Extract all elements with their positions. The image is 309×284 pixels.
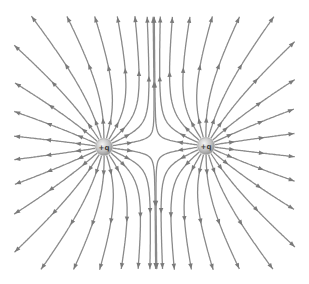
arrow-icon <box>235 263 239 269</box>
field-line <box>209 155 273 270</box>
arrow-icon <box>289 80 295 85</box>
arrow-icon <box>101 118 105 124</box>
arrow-icon <box>95 120 99 126</box>
arrow-icon <box>41 263 46 269</box>
arrow-icon <box>192 165 196 171</box>
arrow-icon <box>125 217 129 223</box>
arrow-icon <box>197 64 201 70</box>
arrow-icon <box>109 218 113 224</box>
arrow-icon <box>94 17 98 23</box>
arrow-icon <box>147 76 151 82</box>
arrow-icon <box>198 218 202 224</box>
arrow-icon <box>187 17 191 23</box>
arrow-icon <box>127 148 133 152</box>
arrow-icon <box>70 219 75 225</box>
arrow-icon <box>15 180 21 184</box>
arrow-icon <box>102 170 106 176</box>
arrow-icon <box>216 219 220 225</box>
arrow-icon <box>216 64 220 70</box>
arrow-icon <box>226 134 232 138</box>
field-line <box>170 17 200 140</box>
arrow-icon <box>238 220 243 226</box>
arrow-icon <box>177 141 183 145</box>
field-lines <box>14 16 295 270</box>
arrow-icon <box>237 64 242 70</box>
arrow-icon <box>205 169 209 175</box>
arrow-icon <box>182 216 186 222</box>
arrow-icon <box>15 83 21 88</box>
arrow-icon <box>145 17 149 23</box>
field-line <box>111 16 139 141</box>
arrow-icon <box>75 148 81 152</box>
arrow-icon <box>91 220 95 226</box>
field-line <box>111 153 140 269</box>
arrow-icon <box>181 67 185 73</box>
field-line <box>211 42 295 139</box>
field-line <box>109 16 126 139</box>
arrow-icon <box>211 118 215 124</box>
charge-label: +q <box>99 144 110 152</box>
arrow-icon <box>235 17 239 23</box>
arrow-icon <box>67 17 71 23</box>
arrow-icon <box>288 109 294 113</box>
arrow-icon <box>78 136 84 140</box>
charge-label: +q <box>201 143 212 151</box>
arrow-icon <box>49 105 55 110</box>
arrow-icon <box>65 64 70 70</box>
charge-right: +q <box>198 138 215 155</box>
field-line <box>15 155 100 253</box>
arrow-icon <box>158 76 162 82</box>
arrow-icon <box>258 166 264 170</box>
field-line <box>214 109 294 142</box>
arrow-icon <box>229 140 235 144</box>
arrow-icon <box>137 70 141 76</box>
arrow-icon <box>209 264 213 270</box>
arrow-icon <box>136 263 140 269</box>
arrow-icon <box>124 134 130 139</box>
arrow-icon <box>15 111 21 115</box>
arrow-icon <box>180 154 186 159</box>
arrow-icon <box>257 121 263 125</box>
arrow-icon <box>99 263 103 269</box>
arrow-icon <box>95 169 99 175</box>
arrow-icon <box>209 17 213 23</box>
arrow-icon <box>123 68 127 74</box>
arrow-icon <box>288 204 294 209</box>
arrow-icon <box>46 123 52 127</box>
arrow-icon <box>167 71 171 77</box>
charge-left: +q <box>96 139 113 156</box>
arrow-icon <box>116 17 120 23</box>
field-line <box>15 151 96 185</box>
arrow-icon <box>227 153 233 157</box>
arrow-icon <box>191 121 196 127</box>
arrow-icon <box>170 17 174 23</box>
arrow-icon <box>88 64 92 70</box>
field-line <box>209 17 274 138</box>
electric-field-diagram: +q +q <box>0 0 309 284</box>
field-line <box>171 152 199 270</box>
arrow-icon <box>15 209 21 214</box>
arrow-icon <box>114 122 118 128</box>
arrow-icon <box>256 183 262 188</box>
arrow-icon <box>169 212 173 218</box>
field-line <box>14 111 96 143</box>
arrow-icon <box>211 168 215 174</box>
arrow-icon <box>138 213 142 219</box>
arrow-icon <box>115 166 120 172</box>
field-line <box>41 156 102 270</box>
arrow-icon <box>160 263 164 269</box>
arrow-icon <box>74 263 78 269</box>
arrow-icon <box>188 263 192 269</box>
field-line <box>214 150 295 182</box>
arrow-icon <box>78 155 84 159</box>
arrow-icon <box>288 177 294 181</box>
arrow-icon <box>159 208 163 214</box>
arrow-icon <box>148 208 152 214</box>
field-line <box>31 16 101 138</box>
arrow-icon <box>47 168 53 172</box>
arrow-icon <box>158 17 162 23</box>
arrow-icon <box>204 117 208 123</box>
arrow-icon <box>148 263 152 269</box>
